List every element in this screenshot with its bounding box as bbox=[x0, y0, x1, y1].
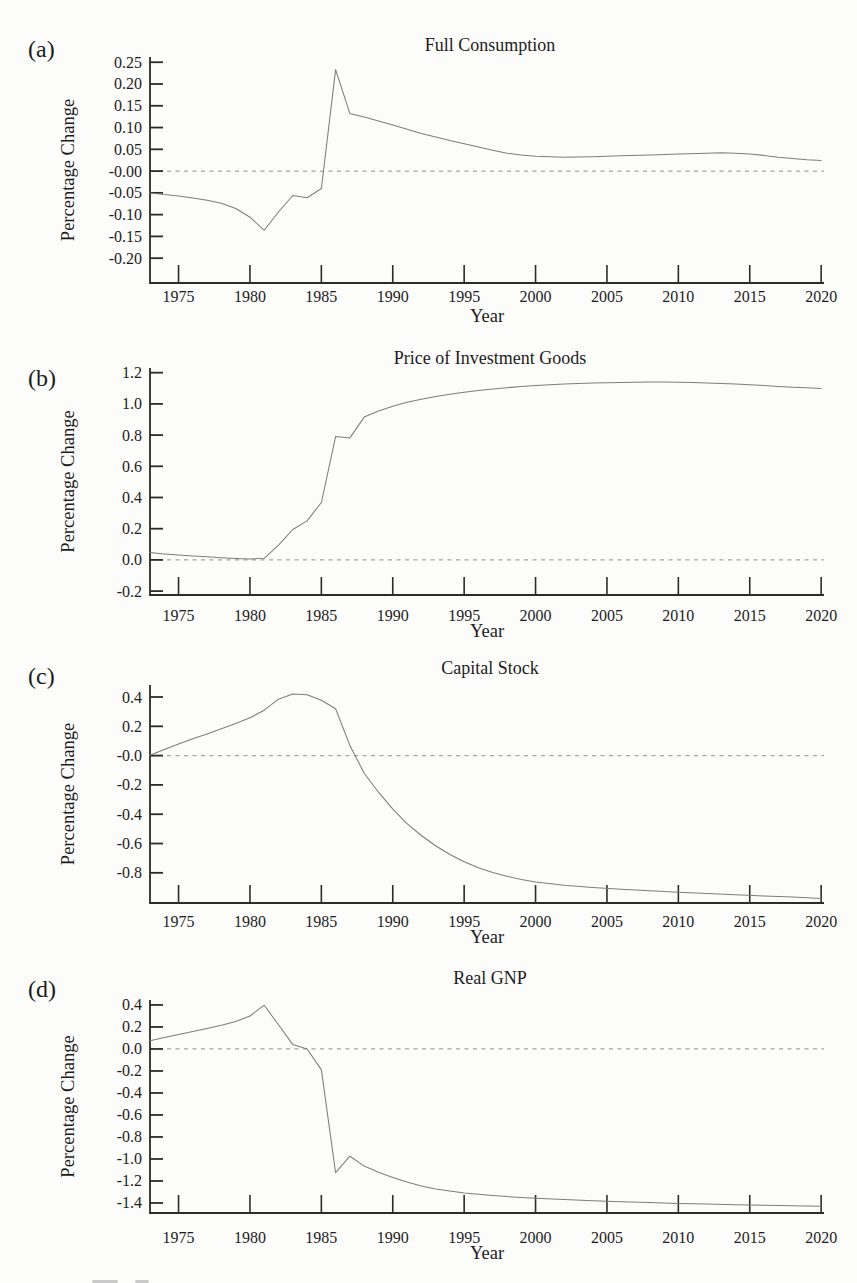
y-tick-label: 0.8 bbox=[122, 427, 142, 444]
x-tick-label: 2020 bbox=[805, 1229, 837, 1246]
x-axis-title: Year bbox=[470, 306, 504, 326]
cropped-caption-fragment bbox=[0, 1278, 857, 1283]
x-tick-label: 2000 bbox=[520, 288, 552, 305]
x-tick-label: 1990 bbox=[377, 288, 409, 305]
y-tick-label: -1.0 bbox=[117, 1150, 142, 1167]
y-tick-label: -0.15 bbox=[109, 228, 142, 245]
x-tick-label: 1975 bbox=[163, 1229, 195, 1246]
plot-a: (a)Full ConsumptionPercentage Change0.25… bbox=[0, 0, 857, 330]
x-tick-label: 2015 bbox=[734, 913, 766, 930]
x-tick-label: 1975 bbox=[163, 913, 195, 930]
x-tick-label: 1985 bbox=[305, 913, 337, 930]
x-tick-label: 2015 bbox=[734, 1229, 766, 1246]
x-tick-label: 2010 bbox=[662, 607, 694, 624]
y-tick-label: -0.8 bbox=[117, 1128, 142, 1145]
y-axis-title: Percentage Change bbox=[58, 723, 78, 865]
y-tick-label: -0.0 bbox=[117, 747, 142, 764]
y-tick-label: -0.2 bbox=[117, 776, 142, 793]
y-tick-label: 0.25 bbox=[114, 54, 142, 71]
x-tick-label: 2015 bbox=[734, 607, 766, 624]
y-axis-title: Percentage Change bbox=[58, 99, 78, 241]
series-line-b bbox=[150, 382, 821, 559]
y-tick-label: 1.0 bbox=[122, 395, 142, 412]
x-axis-title: Year bbox=[470, 927, 504, 947]
axes bbox=[150, 368, 824, 595]
y-tick-label: -0.6 bbox=[117, 835, 142, 852]
x-axis-title: Year bbox=[470, 1243, 504, 1263]
x-tick-label: 1975 bbox=[163, 288, 195, 305]
panel-letter: (c) bbox=[28, 663, 55, 689]
chart-panel-b: (b)Price of Investment GoodsPercentage C… bbox=[0, 330, 857, 640]
y-tick-label: 0.4 bbox=[122, 489, 142, 506]
y-tick-label: -0.8 bbox=[117, 864, 142, 881]
panel-title: Capital Stock bbox=[441, 658, 539, 678]
x-tick-label: 1980 bbox=[234, 607, 266, 624]
y-tick-label: 0.6 bbox=[122, 458, 142, 475]
y-tick-label: 0.0 bbox=[122, 551, 142, 568]
x-tick-label: 2000 bbox=[520, 1229, 552, 1246]
x-tick-label: 1995 bbox=[448, 288, 480, 305]
y-axis-title: Percentage Change bbox=[58, 1035, 78, 1177]
x-tick-label: 2020 bbox=[805, 913, 837, 930]
plot-b: (b)Price of Investment GoodsPercentage C… bbox=[0, 330, 857, 640]
x-tick-label: 1980 bbox=[234, 913, 266, 930]
chart-panel-d: (d)Real GNPPercentage Change0.40.20.0-0.… bbox=[0, 955, 857, 1283]
x-tick-label: 2020 bbox=[805, 607, 837, 624]
y-tick-label: -0.10 bbox=[109, 206, 142, 223]
y-axis-title: Percentage Change bbox=[58, 410, 78, 552]
y-tick-label: 0.05 bbox=[114, 141, 142, 158]
x-tick-label: 1980 bbox=[234, 1229, 266, 1246]
y-tick-label: 0.4 bbox=[122, 689, 142, 706]
panel-letter: (a) bbox=[28, 36, 55, 62]
chart-panel-a: (a)Full ConsumptionPercentage Change0.25… bbox=[0, 0, 857, 330]
panel-title: Real GNP bbox=[453, 968, 527, 988]
x-tick-label: 2010 bbox=[662, 288, 694, 305]
plot-c: (c)Capital StockPercentage Change0.40.2-… bbox=[0, 640, 857, 955]
x-tick-label: 1990 bbox=[377, 607, 409, 624]
x-tick-label: 2000 bbox=[520, 607, 552, 624]
panel-letter: (d) bbox=[28, 976, 56, 1002]
y-tick-label: 0.10 bbox=[114, 119, 142, 136]
y-tick-label: -0.00 bbox=[109, 163, 142, 180]
y-tick-label: -0.05 bbox=[109, 184, 142, 201]
x-tick-label: 1975 bbox=[163, 607, 195, 624]
plot-d: (d)Real GNPPercentage Change0.40.20.0-0.… bbox=[0, 955, 857, 1283]
x-tick-label: 1985 bbox=[305, 1229, 337, 1246]
panel-title: Price of Investment Goods bbox=[394, 348, 586, 368]
y-tick-label: -0.20 bbox=[109, 250, 142, 267]
y-tick-label: 0.15 bbox=[114, 97, 142, 114]
x-axis-title: Year bbox=[470, 621, 504, 640]
panel-letter: (b) bbox=[28, 365, 56, 391]
y-tick-label: -0.4 bbox=[117, 806, 142, 823]
y-tick-label: 0.2 bbox=[122, 520, 142, 537]
x-tick-label: 2005 bbox=[591, 607, 623, 624]
series-line-c bbox=[150, 694, 821, 898]
y-tick-label: -0.4 bbox=[117, 1084, 142, 1101]
x-tick-label: 2020 bbox=[805, 288, 837, 305]
x-tick-label: 2005 bbox=[591, 1229, 623, 1246]
panel-title: Full Consumption bbox=[425, 35, 556, 55]
x-tick-label: 2005 bbox=[591, 288, 623, 305]
x-tick-label: 1990 bbox=[377, 1229, 409, 1246]
y-tick-label: 0.4 bbox=[122, 996, 142, 1013]
x-tick-label: 1985 bbox=[305, 288, 337, 305]
y-tick-label: -0.2 bbox=[117, 1062, 142, 1079]
x-tick-label: 2010 bbox=[662, 913, 694, 930]
x-tick-label: 1980 bbox=[234, 288, 266, 305]
y-tick-label: 1.2 bbox=[122, 364, 142, 381]
x-tick-label: 1990 bbox=[377, 913, 409, 930]
y-tick-label: -1.4 bbox=[117, 1194, 142, 1211]
x-tick-label: 2000 bbox=[520, 913, 552, 930]
y-tick-label: 0.2 bbox=[122, 718, 142, 735]
x-tick-label: 2005 bbox=[591, 913, 623, 930]
x-tick-label: 2010 bbox=[662, 1229, 694, 1246]
y-tick-label: 0.0 bbox=[122, 1040, 142, 1057]
series-line-a bbox=[150, 70, 821, 231]
axes bbox=[150, 1000, 824, 1213]
x-tick-label: 2015 bbox=[734, 288, 766, 305]
y-tick-label: -0.2 bbox=[117, 583, 142, 600]
scanned-figure-page: (a)Full ConsumptionPercentage Change0.25… bbox=[0, 0, 857, 1283]
y-tick-label: -0.6 bbox=[117, 1106, 142, 1123]
y-tick-label: 0.20 bbox=[114, 75, 142, 92]
y-tick-label: -1.2 bbox=[117, 1172, 142, 1189]
